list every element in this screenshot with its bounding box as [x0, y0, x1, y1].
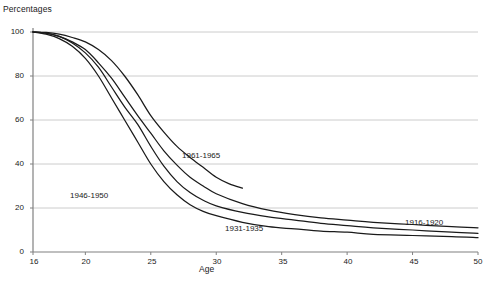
series-line-1931-1935 — [33, 32, 478, 233]
axis-lines — [33, 28, 478, 252]
series-line-1961-1965 — [33, 32, 242, 188]
data-series — [33, 32, 478, 238]
plot-area — [0, 0, 488, 284]
chart-container: Percentages Age 100 80 60 40 20 0 16 20 … — [0, 0, 488, 284]
gridlines — [33, 32, 478, 208]
series-line-1916-1920 — [33, 32, 478, 228]
